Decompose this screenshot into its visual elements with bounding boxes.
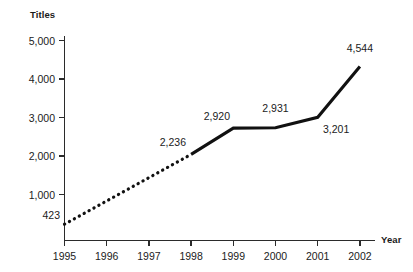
x-tick-label: 1998: [179, 250, 203, 262]
x-tick-label: 2000: [264, 250, 288, 262]
series-dotted-segment: [65, 154, 192, 224]
data-label-1998: 2,236: [160, 136, 186, 148]
chart-plot-area: Titles Year 5,000 4,000 3,000 2,000 1,00…: [0, 0, 413, 272]
y-axis-title: Titles: [30, 9, 55, 20]
y-tick-label: 3,000: [29, 112, 55, 124]
line-chart-figure: Titles Year 5,000 4,000 3,000 2,000 1,00…: [0, 0, 413, 272]
data-label-1999: 2,920: [204, 110, 230, 122]
y-tick-label: 5,000: [29, 35, 55, 47]
y-tick-labels: 5,000 4,000 3,000 2,000 1,000: [29, 35, 55, 201]
data-label-2000: 2,931: [262, 102, 288, 114]
x-tick-marks: [65, 241, 360, 247]
y-tick-label: 4,000: [29, 73, 55, 85]
x-tick-label: 2001: [306, 250, 330, 262]
x-tick-label: 1997: [137, 250, 161, 262]
x-tick-label: 2002: [348, 250, 372, 262]
x-tick-label: 1995: [53, 250, 77, 262]
data-label-1995: 423: [42, 209, 60, 221]
x-tick-label: 1996: [95, 250, 119, 262]
y-tick-label: 2,000: [29, 150, 55, 162]
y-tick-marks: [59, 41, 65, 195]
x-axis-title: Year: [381, 234, 402, 245]
x-tick-label: 1999: [222, 250, 246, 262]
y-tick-label: 1,000: [29, 189, 55, 201]
x-tick-labels: 1995 1996 1997 1998 1999 2000 2001 2002: [53, 250, 372, 262]
data-label-2002: 4,544: [347, 42, 373, 54]
data-label-2001: 3,201: [323, 123, 349, 135]
data-point-labels: 423 2,236 2,920 2,931 3,201 4,544: [42, 42, 373, 221]
